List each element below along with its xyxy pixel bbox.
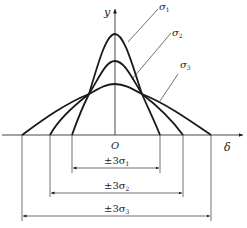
curve-sigma3: [22, 84, 211, 135]
normal-distribution-diagram: y δ O σ1 σ2 σ3 ±3σ1 ±3σ2 ±3σ3: [0, 0, 247, 228]
label-sigma1: σ1: [159, 1, 170, 13]
curve-sigma2: [50, 61, 183, 135]
dim-label-sigma1: ±3σ1: [104, 155, 129, 167]
dim-label-sigma3: ±3σ3: [104, 203, 130, 215]
label-sigma2: σ2: [172, 27, 183, 39]
y-axis-label: y: [103, 6, 111, 19]
origin-label: O: [111, 140, 119, 151]
leader-sigma2: [133, 33, 171, 78]
leader-sigma3: [160, 74, 178, 101]
x-axis-label: δ: [224, 141, 231, 154]
label-sigma3: σ3: [180, 59, 191, 71]
leader-sigma1: [128, 9, 158, 42]
dim-label-sigma2: ±3σ2: [104, 180, 130, 192]
